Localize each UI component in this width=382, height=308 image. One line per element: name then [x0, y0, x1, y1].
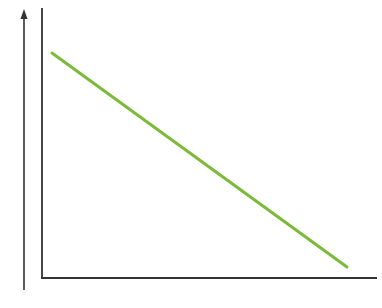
up-arrow-icon	[21, 9, 28, 290]
data-line	[52, 53, 347, 267]
chart-canvas	[0, 0, 382, 308]
chart	[0, 0, 382, 308]
